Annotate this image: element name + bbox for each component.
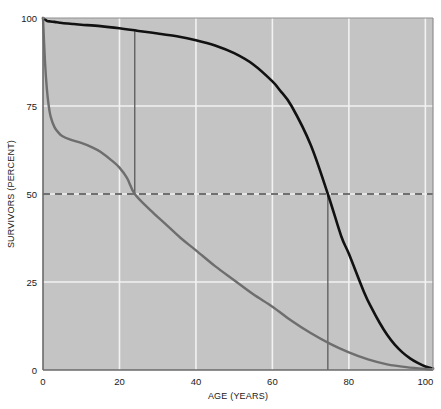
- x-tick-label: 60: [267, 376, 278, 387]
- y-tick-label: 100: [21, 13, 37, 24]
- x-tick-label: 100: [417, 376, 433, 387]
- y-tick-label: 25: [26, 277, 37, 288]
- x-tick-label: 80: [344, 376, 355, 387]
- y-tick-label: 75: [26, 101, 37, 112]
- x-tick-label: 0: [40, 376, 45, 387]
- y-axis-title: SURVIVORS (PERCENT): [6, 140, 16, 248]
- x-axis-title: AGE (YEARS): [208, 391, 268, 401]
- y-tick-label: 50: [26, 189, 37, 200]
- x-tick-label: 20: [114, 376, 125, 387]
- y-tick-label: 0: [32, 365, 37, 376]
- survivorship-chart: 020406080100 0255075100 AGE (YEARS) SURV…: [0, 0, 441, 409]
- x-tick-label: 40: [191, 376, 202, 387]
